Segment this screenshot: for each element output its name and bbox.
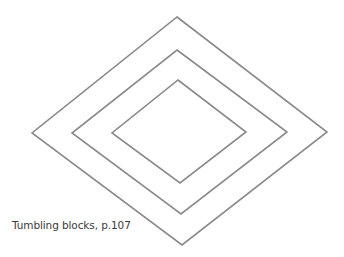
figure-caption: Tumbling blocks, p.107 bbox=[12, 219, 131, 231]
inner-diamond bbox=[112, 80, 246, 183]
